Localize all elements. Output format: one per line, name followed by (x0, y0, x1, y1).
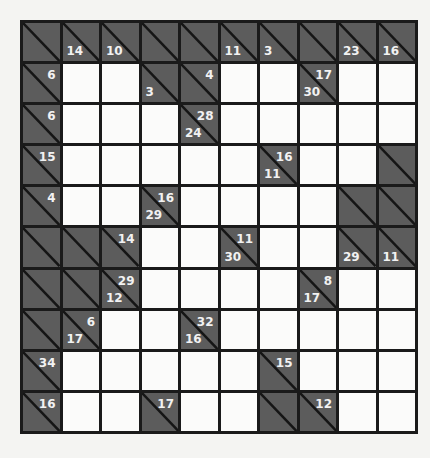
block-cell (63, 270, 100, 308)
across-clue: 12 (315, 398, 332, 410)
entry-cell[interactable] (142, 228, 179, 266)
entry-cell[interactable] (300, 352, 337, 390)
entry-cell[interactable] (221, 146, 258, 184)
entry-cell[interactable] (63, 105, 100, 143)
entry-cell[interactable] (300, 105, 337, 143)
entry-cell[interactable] (260, 64, 297, 102)
entry-cell[interactable] (142, 270, 179, 308)
kakuro-board: 1410113231663417306282415161141629141130… (20, 20, 418, 434)
entry-cell[interactable] (63, 64, 100, 102)
entry-cell[interactable] (221, 352, 258, 390)
entry-cell[interactable] (379, 270, 416, 308)
clue-cell: 4 (181, 64, 218, 102)
across-clue: 34 (39, 357, 56, 369)
entry-cell[interactable] (339, 146, 376, 184)
entry-cell[interactable] (102, 311, 139, 349)
entry-cell[interactable] (379, 105, 416, 143)
block-cell (260, 393, 297, 431)
entry-cell[interactable] (300, 228, 337, 266)
entry-cell[interactable] (260, 270, 297, 308)
block-cell (23, 311, 60, 349)
block-cell (339, 187, 376, 225)
entry-cell[interactable] (63, 187, 100, 225)
across-clue: 32 (197, 316, 214, 328)
entry-cell[interactable] (339, 393, 376, 431)
entry-cell[interactable] (260, 105, 297, 143)
diagonal-divider-icon (23, 311, 60, 349)
diagonal-divider-icon (181, 23, 218, 61)
entry-cell[interactable] (181, 352, 218, 390)
block-cell (142, 23, 179, 61)
entry-cell[interactable] (260, 187, 297, 225)
entry-cell[interactable] (102, 352, 139, 390)
clue-cell: 1730 (300, 64, 337, 102)
entry-cell[interactable] (63, 146, 100, 184)
entry-cell[interactable] (102, 105, 139, 143)
diagonal-divider-icon (23, 23, 60, 61)
entry-cell[interactable] (102, 393, 139, 431)
entry-cell[interactable] (379, 64, 416, 102)
entry-cell[interactable] (379, 311, 416, 349)
entry-cell[interactable] (221, 187, 258, 225)
entry-cell[interactable] (221, 105, 258, 143)
block-cell (23, 23, 60, 61)
entry-cell[interactable] (181, 146, 218, 184)
across-clue: 15 (276, 357, 293, 369)
entry-cell[interactable] (221, 64, 258, 102)
entry-cell[interactable] (102, 187, 139, 225)
clue-cell: 3216 (181, 311, 218, 349)
down-clue: 11 (225, 45, 242, 57)
entry-cell[interactable] (379, 393, 416, 431)
entry-cell[interactable] (181, 228, 218, 266)
diagonal-divider-icon (23, 228, 60, 266)
diagonal-divider-icon (63, 270, 100, 308)
entry-cell[interactable] (102, 64, 139, 102)
entry-cell[interactable] (142, 311, 179, 349)
entry-cell[interactable] (181, 270, 218, 308)
clue-cell: 15 (23, 146, 60, 184)
down-clue: 29 (343, 251, 360, 263)
clue-cell: 1130 (221, 228, 258, 266)
entry-cell[interactable] (300, 187, 337, 225)
entry-cell[interactable] (63, 352, 100, 390)
clue-cell: 617 (63, 311, 100, 349)
entry-cell[interactable] (339, 311, 376, 349)
across-clue: 16 (157, 192, 174, 204)
across-clue: 14 (118, 233, 135, 245)
clue-cell: 3 (142, 64, 179, 102)
across-clue: 6 (47, 69, 55, 81)
block-cell (23, 270, 60, 308)
entry-cell[interactable] (142, 146, 179, 184)
clue-cell: 11 (379, 228, 416, 266)
diagonal-divider-icon (300, 23, 337, 61)
entry-cell[interactable] (181, 393, 218, 431)
entry-cell[interactable] (339, 352, 376, 390)
entry-cell[interactable] (339, 270, 376, 308)
entry-cell[interactable] (339, 64, 376, 102)
entry-cell[interactable] (260, 311, 297, 349)
down-clue: 29 (146, 209, 163, 221)
entry-cell[interactable] (221, 393, 258, 431)
entry-cell[interactable] (142, 105, 179, 143)
down-clue: 12 (106, 292, 123, 304)
clue-cell: 14 (102, 228, 139, 266)
down-clue: 23 (343, 45, 360, 57)
entry-cell[interactable] (379, 352, 416, 390)
down-clue: 17 (304, 292, 321, 304)
across-clue: 16 (39, 398, 56, 410)
entry-cell[interactable] (339, 105, 376, 143)
entry-cell[interactable] (300, 311, 337, 349)
entry-cell[interactable] (102, 146, 139, 184)
entry-cell[interactable] (181, 187, 218, 225)
entry-cell[interactable] (63, 393, 100, 431)
entry-cell[interactable] (300, 146, 337, 184)
clue-cell: 11 (221, 23, 258, 61)
diagonal-divider-icon (142, 23, 179, 61)
entry-cell[interactable] (221, 311, 258, 349)
entry-cell[interactable] (260, 228, 297, 266)
entry-cell[interactable] (221, 270, 258, 308)
entry-cell[interactable] (142, 352, 179, 390)
across-clue: 17 (315, 69, 332, 81)
down-clue: 14 (67, 45, 84, 57)
across-clue: 11 (236, 233, 253, 245)
